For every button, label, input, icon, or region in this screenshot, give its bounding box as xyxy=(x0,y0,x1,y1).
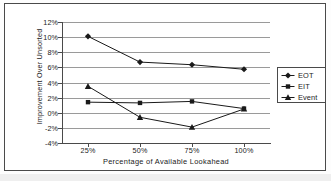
x-axis-tick-label: 100% xyxy=(234,146,253,155)
y-axis-tick-label: 0% xyxy=(47,108,58,117)
legend-label: EOT xyxy=(298,71,314,80)
diamond-icon xyxy=(281,71,295,80)
y-axis-tick-label: 12% xyxy=(43,18,58,27)
series-eot xyxy=(85,33,247,72)
x-axis-tick-label: 50% xyxy=(133,146,148,155)
y-axis-tick-labels: 12%10%8%6%4%2%0%-2%-4% xyxy=(5,22,58,143)
series-line xyxy=(88,36,244,69)
diamond-marker xyxy=(85,33,91,39)
x-axis-tick-label: 75% xyxy=(185,146,200,155)
square-icon xyxy=(281,82,295,91)
data-series-layer xyxy=(62,22,270,143)
chart-legend: EOTEITEvent xyxy=(277,67,326,103)
chart-screenshot: Improvement Over Unsorted 12%10%8%6%4%2%… xyxy=(0,0,331,181)
x-axis-tick-label: 25% xyxy=(81,146,96,155)
series-eit xyxy=(86,99,246,111)
triangle-icon xyxy=(281,93,295,102)
legend-item-event[interactable]: Event xyxy=(281,92,323,103)
plot-area xyxy=(62,22,270,143)
legend-item-eot[interactable]: EOT xyxy=(281,70,323,81)
square-marker xyxy=(138,101,142,105)
diamond-marker xyxy=(285,72,291,78)
y-axis-tick-label: 6% xyxy=(47,63,58,72)
square-marker xyxy=(286,84,290,88)
y-axis-tick-label: -4% xyxy=(45,139,58,148)
series-event xyxy=(85,83,247,130)
chart-frame: Improvement Over Unsorted 12%10%8%6%4%2%… xyxy=(4,3,326,171)
square-marker xyxy=(190,99,194,103)
diamond-marker xyxy=(189,62,195,68)
x-axis-title: Percentage of Available Lookahead xyxy=(62,157,270,166)
diamond-marker xyxy=(137,59,143,65)
square-marker xyxy=(86,100,90,104)
legend-label: Event xyxy=(298,93,317,102)
y-axis-tick-label: 10% xyxy=(43,33,58,42)
y-axis-tick-label: 8% xyxy=(47,48,58,57)
x-axis-line xyxy=(62,143,271,144)
legend-item-eit[interactable]: EIT xyxy=(281,81,323,92)
triangle-marker xyxy=(85,83,91,89)
y-axis-tick-label: 4% xyxy=(47,78,58,87)
legend-label: EIT xyxy=(298,82,310,91)
image-bottom-edge xyxy=(0,174,331,181)
diamond-marker xyxy=(241,66,247,72)
series-line xyxy=(88,86,244,127)
series-line xyxy=(88,101,244,108)
y-axis-tick-label: 2% xyxy=(47,93,58,102)
y-axis-tick-label: -2% xyxy=(45,123,58,132)
y-axis-tick xyxy=(58,143,62,144)
triangle-marker xyxy=(137,114,143,120)
